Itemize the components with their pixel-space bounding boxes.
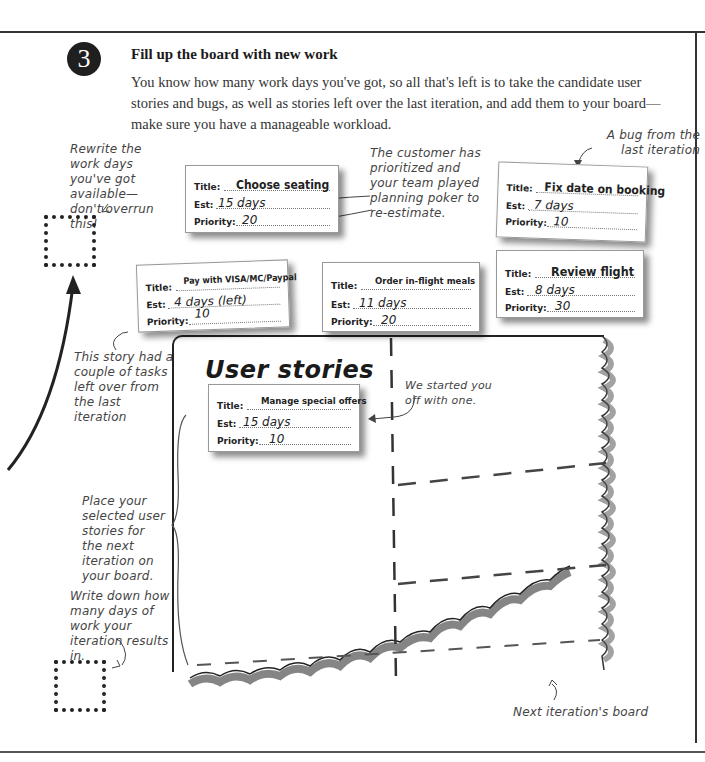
est-label: Est: [506,201,526,212]
est-label: Est: [331,300,350,310]
est-label: Est: [217,419,236,429]
story-card-review-flight[interactable]: Title:Review flight Est:8 days Priority:… [496,250,644,318]
story-card-manage-special-offers[interactable]: Title:Manage special offers Est:15 days … [208,384,360,452]
card-priority: 10 [269,432,284,446]
story-card-order-meals[interactable]: Title:Order in-flight meals Est:11 days … [322,262,480,332]
card-title: Review flight [551,264,634,279]
card-estimate: 15 days [218,196,265,210]
title-label: Title: [506,183,533,194]
title-label: Title: [146,282,173,293]
card-estimate: 15 days [243,415,290,429]
priority-label: Priority: [505,303,547,313]
card-priority: 30 [555,299,570,313]
est-label: Est: [146,300,166,311]
card-estimate: 7 days [534,198,574,213]
board-decorations [0,0,705,762]
card-title: Manage special offers [261,395,367,406]
card-estimate: 11 days [359,296,406,310]
est-label: Est: [194,200,213,210]
est-label: Est: [505,287,524,297]
title-label: Title: [217,401,243,411]
card-priority: 10 [553,214,569,229]
story-card-pay-with-visa[interactable]: Title:Pay with VISA/MC/Paypal Est:4 days… [136,259,290,332]
priority-label: Priority: [217,436,259,446]
priority-label: Priority: [505,217,547,228]
bug-card-fix-date[interactable]: Title:Fix date on booking Est:7 days Pri… [496,161,649,242]
title-label: Title: [331,281,357,291]
story-card-choose-seating[interactable]: Title:Choose seating Est:15 days Priorit… [185,165,339,233]
priority-label: Priority: [331,317,373,327]
card-title: Choose seating [236,178,329,192]
card-title: Fix date on booking [544,180,665,198]
priority-label: Priority: [194,217,236,227]
card-priority: 10 [194,306,210,321]
title-label: Title: [505,269,531,279]
card-estimate: 8 days [535,283,575,297]
card-title: Order in-flight meals [375,275,475,286]
card-title: Pay with VISA/MC/Paypal [183,272,296,286]
title-label: Title: [194,182,220,192]
priority-label: Priority: [147,316,189,327]
card-priority: 20 [242,213,257,227]
card-estimate: 4 days (left) [174,293,247,310]
card-priority: 20 [381,313,396,327]
